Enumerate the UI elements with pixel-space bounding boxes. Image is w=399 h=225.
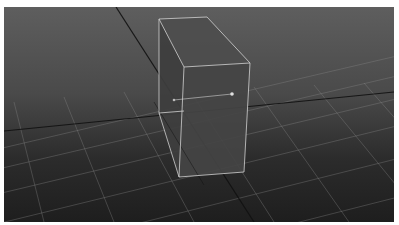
selected-box-object[interactable] — [154, 17, 250, 185]
grid-line — [64, 97, 114, 222]
box-face[interactable] — [179, 63, 250, 177]
pivot-point-icon[interactable] — [230, 92, 234, 96]
grid-line — [364, 83, 394, 197]
3d-viewport[interactable] — [4, 7, 394, 222]
origin-point-icon — [173, 99, 176, 102]
grid-line — [14, 102, 44, 222]
scene-canvas[interactable] — [4, 7, 394, 222]
grid-line — [254, 87, 349, 222]
